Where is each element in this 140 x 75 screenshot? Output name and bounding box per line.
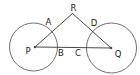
- label-C: C: [75, 48, 81, 58]
- geometry-diagram: R A D P B C Q: [0, 0, 140, 75]
- center-dot-P: [34, 46, 37, 49]
- segment-PQ: [35, 47, 111, 48]
- center-dot-Q: [110, 47, 113, 50]
- label-A: A: [46, 17, 52, 27]
- two-circles-diagram: R A D P B C Q: [0, 0, 140, 75]
- label-R: R: [71, 3, 77, 13]
- label-B: B: [58, 48, 64, 58]
- label-P: P: [25, 46, 30, 56]
- label-Q: Q: [115, 49, 122, 59]
- label-D: D: [91, 18, 98, 28]
- segment-RP: [35, 14, 73, 48]
